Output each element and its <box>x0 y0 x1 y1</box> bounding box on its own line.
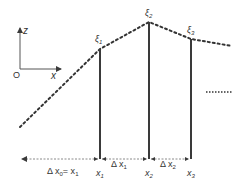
origin-label: O <box>13 70 20 80</box>
x-position-label-1: x1 <box>95 168 104 179</box>
interval-label-2: Δ x2 <box>160 159 177 170</box>
x-position-label-3: x3 <box>186 168 196 179</box>
diagram-canvas: O x z ξ1 ξ2 ξ3 Δ x0= x1 Δ x1 Δ x2 <box>0 0 248 187</box>
interval-label-0: Δ x0= x1 <box>47 166 79 177</box>
x-position-label-2: x2 <box>144 168 154 179</box>
x-axis-label: x <box>50 70 57 81</box>
xi-label-2: ξ2 <box>145 8 153 19</box>
xi-label-1: ξ1 <box>95 34 102 45</box>
coordinate-axes: O x z <box>13 25 61 81</box>
interval-label-1: Δ x1 <box>111 159 128 170</box>
z-axis-label: z <box>22 25 28 36</box>
xi-label-3: ξ3 <box>187 25 195 36</box>
